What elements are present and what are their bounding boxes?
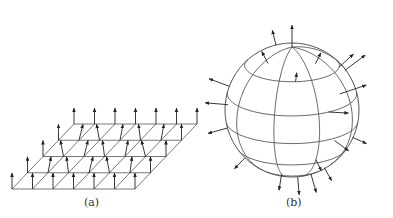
sphere-normal-arrow — [209, 79, 229, 87]
sphere-normal-arrow — [234, 158, 245, 169]
sphere-normal-arrow — [345, 55, 365, 70]
sphere-normal-arrow — [298, 177, 300, 195]
sphere-normal-arrow — [316, 160, 321, 171]
sphere-normal-arrow — [205, 103, 228, 105]
lattice-arrow — [130, 157, 132, 173]
sphere-normal-arrow — [329, 112, 349, 113]
sphere-normal-arrow — [311, 174, 316, 193]
lattice-arrow — [67, 157, 69, 173]
sphere-normal-arrow — [272, 30, 276, 45]
sphere-normal-arrow — [208, 128, 228, 133]
lattice-arrow — [97, 124, 100, 140]
sphere-normal-arrow — [353, 137, 367, 143]
sphere-panel-b — [205, 25, 366, 195]
sphere-grid-line — [292, 47, 320, 176]
lattice-arrow — [61, 141, 64, 157]
sphere-normal-arrow — [296, 73, 297, 82]
lattice-arrow — [103, 141, 105, 157]
sphere-grid-line — [304, 60, 340, 81]
figure-canvas — [0, 0, 393, 218]
sphere-grid-line — [274, 47, 292, 177]
sphere-grid-line — [292, 47, 352, 166]
panel-a-label: (a) — [84, 196, 99, 209]
lattice-arrow — [107, 157, 110, 173]
lattice-arrow — [139, 124, 141, 140]
sphere-grid-line — [239, 151, 306, 165]
lattice-panel-a — [12, 108, 197, 189]
sphere-grid-line — [245, 60, 304, 82]
panel-b-label: (b) — [286, 196, 302, 209]
lattice-arrow — [142, 141, 146, 157]
sphere-normal-arrow — [324, 168, 331, 181]
sphere-normal-arrow — [279, 174, 282, 190]
sphere-grid-line — [308, 122, 358, 142]
